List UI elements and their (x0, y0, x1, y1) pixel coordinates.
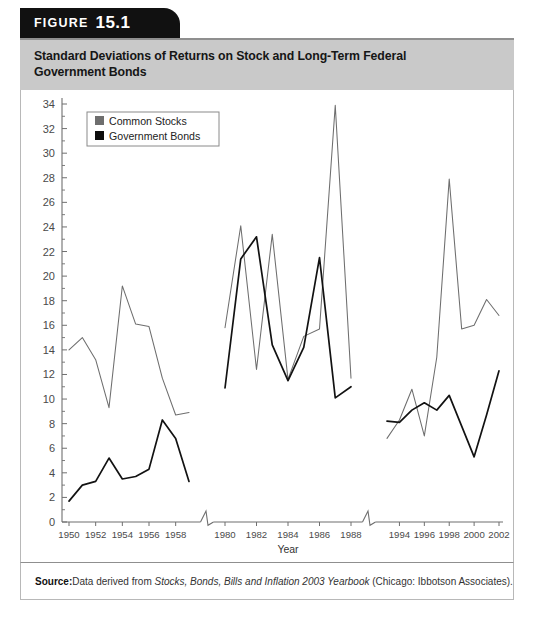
y-axis-tick-label: 4 (49, 467, 55, 479)
x-axis-tick-label: 1958 (165, 529, 186, 540)
x-axis-tick-label: 1982 (246, 529, 267, 540)
source-note: Source:Data derived from Stocks, Bonds, … (20, 562, 514, 600)
y-axis-tick-label: 10 (43, 393, 55, 405)
y-axis-tick-label: 6 (49, 442, 55, 454)
y-axis-tick-label: 32 (43, 123, 55, 135)
series-line-common-stocks (225, 105, 351, 379)
x-axis-tick-label: 1980 (214, 529, 235, 540)
source-label: Source: (35, 576, 72, 587)
y-axis-tick-label: 8 (49, 418, 55, 430)
source-publication-title: Stocks, Bonds, Bills and Inflation 2003 … (155, 576, 370, 587)
legend-label-common-stocks: Common Stocks (109, 115, 187, 127)
x-axis-break-marker (201, 511, 214, 525)
figure-number-tab: FIGURE 15.1 (20, 8, 180, 38)
x-axis-tick-label: 2002 (488, 529, 509, 540)
legend-swatch-government-bonds (95, 131, 104, 140)
series-line-common-stocks (69, 286, 189, 415)
series-line-government-bonds (69, 420, 189, 501)
source-text-after: (Chicago: Ibbotson Associates). (369, 576, 512, 587)
source-text: Source:Data derived from Stocks, Bonds, … (35, 576, 513, 587)
legend-swatch-common-stocks (95, 116, 104, 125)
x-axis-break-marker (363, 511, 376, 525)
series-line-government-bonds (225, 237, 351, 398)
x-axis-tick-label: 1952 (85, 529, 106, 540)
y-axis-tick-label: 0 (49, 516, 55, 528)
series-line-common-stocks (387, 179, 499, 438)
figure-title-line-1: Standard Deviations of Returns on Stock … (34, 48, 500, 64)
x-axis-tick-label: 1994 (389, 529, 411, 540)
y-axis-tick-label: 18 (43, 295, 55, 307)
chart-panel: 0246810121416182022242628303234195019521… (20, 90, 514, 562)
y-axis-tick-label: 20 (43, 270, 55, 282)
x-axis-tick-label: 1988 (340, 529, 361, 540)
figure-title-line-2: Government Bonds (34, 64, 500, 80)
y-axis-tick-label: 14 (43, 344, 55, 356)
x-axis-tick-label: 1954 (112, 529, 134, 540)
y-axis-tick-label: 22 (43, 246, 55, 258)
x-axis-tick-label: 1998 (439, 529, 460, 540)
figure-container: FIGURE 15.1 Standard Deviations of Retur… (20, 8, 514, 600)
x-axis-tick-label: 1956 (138, 529, 159, 540)
x-axis-tick-label: 1950 (58, 529, 79, 540)
y-axis-tick-label: 12 (43, 368, 55, 380)
x-axis-tick-label: 1996 (414, 529, 435, 540)
y-axis-tick-label: 16 (43, 319, 55, 331)
x-axis-tick-label: 2000 (463, 529, 484, 540)
legend-label-government-bonds: Government Bonds (109, 130, 200, 142)
source-text-before: Data derived from (72, 576, 154, 587)
y-axis-tick-label: 30 (43, 147, 55, 159)
y-axis-tick-label: 24 (43, 221, 55, 233)
y-axis-tick-label: 2 (49, 491, 55, 503)
figure-label: FIGURE (34, 16, 88, 30)
figure-number: 15.1 (95, 13, 130, 33)
x-axis-title: Year (277, 543, 299, 555)
x-axis-tick-label: 1984 (277, 529, 299, 540)
line-chart: 0246810121416182022242628303234195019521… (21, 90, 513, 560)
figure-title-band: Standard Deviations of Returns on Stock … (20, 38, 514, 90)
y-axis-tick-label: 28 (43, 172, 55, 184)
x-axis-tick-label: 1986 (309, 529, 330, 540)
y-axis-tick-label: 26 (43, 196, 55, 208)
y-axis-tick-label: 34 (43, 98, 55, 110)
series-line-government-bonds (387, 371, 499, 457)
